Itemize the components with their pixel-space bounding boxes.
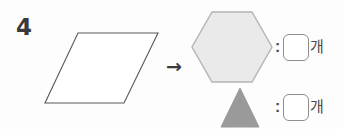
worksheet-problem-panel: 4 → : 개 : 개 <box>0 0 343 129</box>
answer-row-hexagon: : 개 <box>272 32 324 62</box>
answer-row-triangle: : 개 <box>272 92 324 122</box>
colon-separator: : <box>272 98 283 115</box>
triangle-unit-label: 개 <box>310 100 324 115</box>
colon-separator: : <box>272 38 283 55</box>
hexagon-count-input[interactable] <box>283 34 309 61</box>
hexagon-shape <box>192 12 272 82</box>
hexagon-unit-label: 개 <box>310 40 324 55</box>
triangle-shape <box>221 88 259 127</box>
triangle-count-input[interactable] <box>283 94 309 121</box>
